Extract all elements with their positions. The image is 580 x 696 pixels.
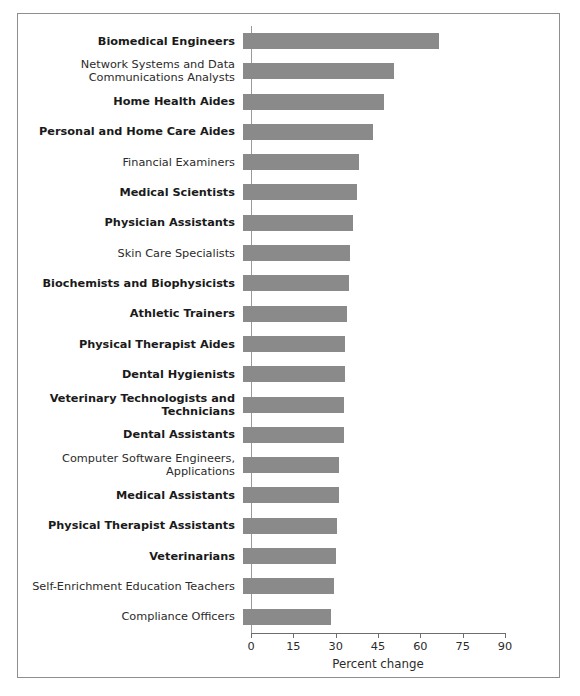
bar (243, 518, 337, 534)
bar-row: Dental Hygienists (18, 359, 561, 389)
x-axis-tick (378, 633, 379, 638)
x-axis-tick-label: 45 (371, 640, 385, 653)
bar-track (243, 571, 561, 601)
bar-track (243, 420, 561, 450)
bar (243, 487, 339, 503)
bar-category-label: Veterinary Technologists and Technicians (18, 392, 243, 418)
chart-frame: Biomedical EngineersNetwork Systems and … (17, 13, 560, 678)
bar-track (243, 268, 561, 298)
x-axis-tick-label: 90 (498, 640, 512, 653)
bar-row: Network Systems and Data Communications … (18, 56, 561, 86)
bar (243, 33, 439, 49)
bar-track (243, 56, 561, 86)
bar-row: Veterinarians (18, 541, 561, 571)
bar-category-label: Dental Hygienists (18, 368, 243, 381)
x-axis-tick (420, 633, 421, 638)
bar (243, 63, 394, 79)
bar-category-label: Athletic Trainers (18, 307, 243, 320)
bar (243, 548, 336, 564)
bar (243, 154, 359, 170)
bar-track (243, 329, 561, 359)
bar (243, 457, 339, 473)
bar-track (243, 450, 561, 480)
bar-track (243, 117, 561, 147)
bar (243, 245, 350, 261)
bar-track (243, 147, 561, 177)
bar-category-label: Dental Assistants (18, 428, 243, 441)
bar-row: Athletic Trainers (18, 299, 561, 329)
bar-category-label: Home Health Aides (18, 95, 243, 108)
bar-row: Physician Assistants (18, 208, 561, 238)
bar (243, 306, 347, 322)
bar-category-label: Financial Examiners (18, 156, 243, 169)
bar-rows: Biomedical EngineersNetwork Systems and … (18, 26, 561, 632)
x-axis-tick-label: 0 (247, 640, 254, 653)
bar (243, 397, 344, 413)
x-axis-tick-label: 60 (413, 640, 427, 653)
bar-category-label: Medical Scientists (18, 186, 243, 199)
bar-track (243, 359, 561, 389)
bar-category-label: Physical Therapist Aides (18, 338, 243, 351)
bar (243, 184, 357, 200)
bar (243, 427, 344, 443)
bar-row: Computer Software Engineers, Application… (18, 450, 561, 480)
bar-track (243, 511, 561, 541)
bar-row: Biomedical Engineers (18, 26, 561, 56)
bar-category-label: Physical Therapist Assistants (18, 519, 243, 532)
bar-row: Self-Enrichment Education Teachers (18, 571, 561, 601)
x-axis-tick-label: 15 (286, 640, 300, 653)
x-axis: 0153045607590 Percent change (251, 633, 513, 679)
bar-row: Financial Examiners (18, 147, 561, 177)
bar (243, 366, 345, 382)
bar-track (243, 299, 561, 329)
bar-row: Dental Assistants (18, 420, 561, 450)
bar-track (243, 541, 561, 571)
bar-category-label: Compliance Officers (18, 610, 243, 623)
bar-track (243, 602, 561, 632)
bar-category-label: Self-Enrichment Education Teachers (18, 580, 243, 593)
bar-category-label: Physician Assistants (18, 216, 243, 229)
bar (243, 215, 353, 231)
x-axis-tick (293, 633, 294, 638)
bar (243, 94, 384, 110)
bar-row: Home Health Aides (18, 87, 561, 117)
bar-category-label: Veterinarians (18, 550, 243, 563)
bar-chart-plot: Biomedical EngineersNetwork Systems and … (18, 14, 561, 679)
bar-track (243, 208, 561, 238)
bar (243, 124, 373, 140)
bar-row: Compliance Officers (18, 602, 561, 632)
bar-row: Medical Scientists (18, 177, 561, 207)
bar-row: Physical Therapist Assistants (18, 511, 561, 541)
x-axis-tick (336, 633, 337, 638)
bar-track (243, 26, 561, 56)
figure-canvas: Biomedical EngineersNetwork Systems and … (0, 0, 580, 696)
bar (243, 275, 349, 291)
bar-category-label: Personal and Home Care Aides (18, 125, 243, 138)
bar-row: Medical Assistants (18, 480, 561, 510)
bar-track (243, 390, 561, 420)
x-axis-tick (463, 633, 464, 638)
bar-category-label: Medical Assistants (18, 489, 243, 502)
bar-category-label: Skin Care Specialists (18, 247, 243, 260)
bar-row: Personal and Home Care Aides (18, 117, 561, 147)
bar-category-label: Biochemists and Biophysicists (18, 277, 243, 290)
x-axis-tick-label: 30 (328, 640, 342, 653)
bar-row: Biochemists and Biophysicists (18, 268, 561, 298)
bar-row: Veterinary Technologists and Technicians (18, 390, 561, 420)
x-axis-tick (505, 633, 506, 638)
bar-category-label: Biomedical Engineers (18, 35, 243, 48)
bar-category-label: Computer Software Engineers, Application… (18, 452, 243, 478)
bar (243, 578, 334, 594)
bar-row: Skin Care Specialists (18, 238, 561, 268)
bar-track (243, 177, 561, 207)
bar-track (243, 238, 561, 268)
bar-row: Physical Therapist Aides (18, 329, 561, 359)
x-axis-title: Percent change (332, 657, 424, 671)
bar-track (243, 87, 561, 117)
bar-track (243, 480, 561, 510)
bar (243, 336, 345, 352)
x-axis-tick (251, 633, 252, 638)
bar (243, 609, 331, 625)
bar-category-label: Network Systems and Data Communications … (18, 58, 243, 84)
x-axis-tick-label: 75 (455, 640, 469, 653)
